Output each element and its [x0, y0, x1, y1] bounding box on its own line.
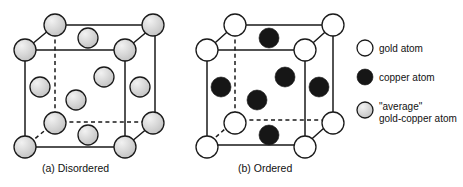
legend-gold-label: gold atom — [379, 43, 423, 54]
panel-a-atom-corner-back-top-left-average — [44, 14, 66, 36]
panel-a: (a) Disordered — [14, 14, 164, 174]
panel-a-atom-corner-back-bottom-right-average — [142, 112, 164, 134]
panel-a-atom-face-center-right-average — [130, 77, 150, 97]
panel-a-atom-corner-front-top-right-average — [114, 39, 136, 61]
panel-b-atom-face-center-bottom-copper — [259, 125, 279, 145]
panel-a-atom-face-center-bottom-average — [78, 125, 98, 145]
legend-average-line-0: "average" — [379, 101, 423, 112]
panel-b-atom-face-center-top-copper — [259, 28, 279, 48]
legend-average-label: "average"gold-copper atom — [379, 101, 457, 124]
legend-copper: copper atom — [357, 69, 435, 85]
panel-b-atom-corner-front-bottom-left-gold — [196, 136, 218, 158]
legend-copper-line-0: copper atom — [379, 72, 435, 83]
panel-b-atom-corner-back-top-right-gold — [322, 14, 344, 36]
legend-average: "average"gold-copper atom — [357, 101, 457, 124]
panel-b-atom-face-center-left-copper — [211, 77, 231, 97]
panel-a-atom-face-center-top-average — [78, 28, 98, 48]
panel-b-atom-face-center-front-copper — [247, 90, 267, 110]
panel-a-caption: (a) Disordered — [42, 162, 109, 174]
legend-copper-label: copper atom — [379, 72, 435, 83]
panel-a-atom-corner-back-top-right-average — [142, 14, 164, 36]
panel-b-atom-corner-front-top-right-gold — [294, 39, 316, 61]
legend-gold-line-0: gold atom — [379, 43, 423, 54]
legend-average-line-1: gold-copper atom — [379, 113, 457, 124]
panel-b-atom-corner-back-bottom-left-gold — [224, 112, 246, 134]
panel-b-caption: (b) Ordered — [238, 162, 292, 174]
panel-a-atom-face-center-back-average — [94, 67, 114, 87]
panel-b-atom-face-center-right-copper — [309, 77, 329, 97]
alloy-unit-cell-figure: (a) Disordered(b) Ordered gold atomcoppe… — [0, 0, 463, 187]
panel-a-atom-face-center-left-average — [30, 77, 50, 97]
panel-a-atom-corner-front-bottom-right-average — [114, 136, 136, 158]
panel-b-atom-face-center-back-copper — [275, 67, 295, 87]
panel-b-atom-corner-back-bottom-right-gold — [322, 112, 344, 134]
panel-b: (b) Ordered — [196, 14, 344, 174]
legend-group: gold atomcopper atom"average"gold-copper… — [357, 40, 457, 124]
panel-a-atom-corner-front-top-left-average — [14, 39, 36, 61]
legend-average-atom-swatch-average — [357, 102, 373, 118]
panel-b-atom-corner-back-top-left-gold — [224, 14, 246, 36]
panel-b-atom-corner-front-bottom-right-gold — [294, 136, 316, 158]
legend-gold-atom-swatch-gold — [357, 40, 373, 56]
legend-gold: gold atom — [357, 40, 423, 56]
legend-copper-atom-swatch-copper — [357, 69, 373, 85]
figure-canvas: (a) Disordered(b) Ordered gold atomcoppe… — [0, 0, 463, 187]
panel-b-atom-corner-front-top-left-gold — [196, 39, 218, 61]
panels-layer: (a) Disordered(b) Ordered — [14, 14, 344, 174]
panel-a-atom-face-center-front-average — [66, 90, 86, 110]
panel-a-atom-corner-front-bottom-left-average — [14, 136, 36, 158]
panel-a-atom-corner-back-bottom-left-average — [44, 112, 66, 134]
